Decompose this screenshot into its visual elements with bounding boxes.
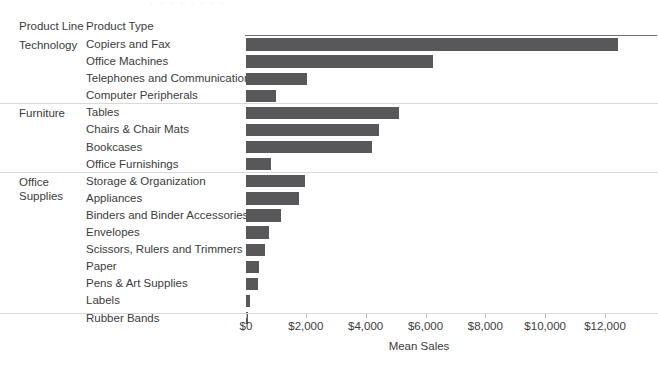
product-type-label: Scissors, Rulers and Trimmers [86,243,243,255]
column-header-product-line: Product Line [19,20,84,32]
axis-tick-label: $6,000 [408,320,443,332]
chart-row[interactable]: Chairs & Chair Mats [0,121,658,138]
group-label-line: Technology [19,38,77,52]
bar-mark[interactable] [246,141,372,153]
bar-mark[interactable] [246,209,281,221]
chart-row[interactable]: Binders and Binder Accessories [0,207,658,224]
axis-tick [605,314,606,318]
bar-mark[interactable] [246,278,258,290]
chart-row[interactable]: Appliances [0,190,658,207]
product-type-label: Paper [86,260,117,272]
bar-mark[interactable] [246,107,399,119]
product-type-label: Storage & Organization [86,175,206,187]
axis-tick [426,314,427,318]
bar-mark[interactable] [246,158,271,170]
bar-mark[interactable] [246,192,299,204]
product-line-group-label: Technology [19,38,77,52]
axis-title-wrap: Mean Sales [0,340,658,352]
product-type-label: Appliances [86,192,142,204]
chart-row[interactable]: Storage & Organization [0,173,658,190]
chart-row[interactable]: Office Machines [0,53,658,70]
axis-tick [485,314,486,318]
axis-tick [246,314,247,318]
group-label-line: Supplies [19,189,63,203]
x-axis-title: Mean Sales [389,340,450,352]
axis-tick-label: $2,000 [288,320,323,332]
product-type-label: Chairs & Chair Mats [86,123,189,135]
bar-mark[interactable] [246,175,305,187]
axis-tick [306,314,307,318]
product-type-label: Office Furnishings [86,158,178,170]
chart-row[interactable]: Telephones and Communication [0,70,658,87]
chart-row[interactable]: Paper [0,258,658,275]
bar-mark[interactable] [246,90,276,102]
product-type-label: Computer Peripherals [86,89,198,101]
bar-mark[interactable] [246,55,433,67]
axis-tick-label: $12,000 [584,320,626,332]
product-type-label: Copiers and Fax [86,38,170,50]
column-header-row: Product Line Product Type [0,20,658,36]
chart-row[interactable]: Envelopes [0,224,658,241]
axis-tick [545,314,546,318]
bar-mark[interactable] [246,124,379,136]
product-type-label: Labels [86,294,120,306]
group-separator [0,103,658,104]
product-type-label: Envelopes [86,226,140,238]
chart-row[interactable]: Pens & Art Supplies [0,275,658,292]
product-line-group-label: Furniture [19,106,65,120]
axis-tick-label: $0 [240,320,253,332]
product-type-label: Office Machines [86,55,168,67]
bar-mark[interactable] [246,38,618,50]
axis-tick-marks [0,314,658,319]
axis-tick [366,314,367,318]
axis-tick-label: $8,000 [468,320,503,332]
bar-mark[interactable] [246,73,307,85]
cut-off-title-sliver: . . . . . . . . [0,0,658,6]
chart-row[interactable]: Tables [0,104,658,121]
axis-tick-label: $10,000 [524,320,566,332]
product-type-label: Pens & Art Supplies [86,277,188,289]
chart-row[interactable]: Labels [0,292,658,309]
group-separator [0,172,658,173]
axis-tick-labels: $0$2,000$4,000$6,000$8,000$10,000$12,000 [0,320,658,336]
chart-row[interactable]: Bookcases [0,139,658,156]
bar-mark[interactable] [246,261,259,273]
product-line-group-label: OfficeSupplies [19,175,63,203]
bar-mark[interactable] [246,295,250,307]
product-type-label: Binders and Binder Accessories [86,209,248,221]
chart-row[interactable]: Copiers and Fax [0,36,658,53]
chart-row[interactable]: Office Furnishings [0,156,658,173]
product-type-label: Telephones and Communication [86,72,250,84]
chart-row[interactable]: Scissors, Rulers and Trimmers [0,241,658,258]
product-type-label: Bookcases [86,141,142,153]
bar-chart-visualization: . . . . . . . . Product Line Product Typ… [0,0,658,366]
product-type-label: Tables [86,106,119,118]
group-label-line: Furniture [19,106,65,120]
bar-mark[interactable] [246,226,269,238]
axis-tick-label: $4,000 [348,320,383,332]
group-label-line: Office [19,175,63,189]
column-header-product-type: Product Type [86,20,154,32]
chart-rows: Copiers and FaxOffice MachinesTelephones… [0,36,658,327]
chart-row[interactable]: Computer Peripherals [0,87,658,104]
bar-mark[interactable] [246,244,265,256]
